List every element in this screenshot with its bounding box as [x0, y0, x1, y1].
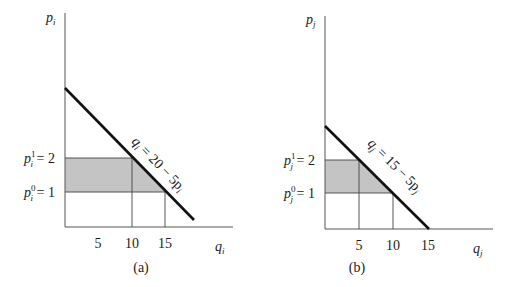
panel-b-x-tick: 5: [356, 238, 363, 253]
panel-b-x-tick: 15: [421, 238, 435, 253]
panel-b-x-axis-label: qj: [473, 241, 483, 258]
panel-b-price-label-p1: p1j = 2: [283, 151, 315, 171]
panel-a-y-axis-label: pi: [45, 10, 56, 27]
panel-a-price-label-p1: p1i = 2: [23, 149, 55, 169]
panel-a: pi qi p1i = 2 p0i = 1 5 10 15 qi = 20 − …: [23, 10, 233, 276]
panel-b: pj qj p1j = 2 p0j = 1 5 10 15 qj = 15 − …: [283, 12, 493, 276]
panel-b-y-axis-label: pj: [305, 12, 316, 29]
panel-b-x-tick: 10: [386, 238, 400, 253]
panel-a-x-tick: 5: [95, 236, 102, 251]
panel-b-price-label-p0: p0j = 1: [283, 184, 315, 204]
panel-b-caption: (b): [349, 260, 366, 276]
panel-a-x-tick: 10: [125, 236, 139, 251]
panel-a-demand-curve: [65, 88, 194, 220]
panel-a-x-axis-label: qi: [215, 239, 225, 256]
panel-a-price-label-p0: p0i = 1: [23, 183, 55, 203]
panel-a-caption: (a): [133, 260, 149, 276]
figure: pi qi p1i = 2 p0i = 1 5 10 15 qi = 20 − …: [0, 0, 512, 287]
panel-a-x-tick: 15: [158, 236, 172, 251]
